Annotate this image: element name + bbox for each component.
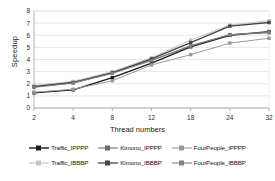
legend-item-fourpeople-ipppp[interactable]: FourPeople_IPPPP (172, 144, 246, 152)
speedup-line-chart: 012345678 24812182432 Speedup Thread num… (0, 0, 275, 181)
svg-text:2: 2 (32, 114, 36, 121)
legend-swatch-icon (98, 159, 118, 167)
svg-text:8: 8 (26, 7, 30, 14)
svg-text:6: 6 (26, 32, 30, 39)
svg-text:1: 1 (26, 92, 30, 99)
svg-text:4: 4 (71, 114, 75, 121)
legend-label: Traffic_IPPPP (51, 144, 88, 151)
svg-text:32: 32 (265, 114, 273, 121)
svg-text:3: 3 (26, 68, 30, 75)
legend-label: FourPeople_IPPPP (194, 144, 246, 151)
svg-text:4: 4 (26, 56, 30, 63)
legend-label: Kimono_IPPPP (120, 144, 161, 151)
svg-text:24: 24 (226, 114, 234, 121)
svg-text:5: 5 (26, 44, 30, 51)
legend-label: Kimono_IBBBP (120, 159, 161, 166)
plot-area: 012345678 24812182432 Speedup Thread num… (0, 0, 275, 140)
y-axis-title: Speedup (10, 22, 19, 82)
legend-label: FourPeople_IBBBP (194, 159, 246, 166)
legend-row-bottom: Traffic_IBBBP Kimono_IBBBP FourPeople_IB… (0, 155, 275, 170)
legend-swatch-icon (29, 144, 49, 152)
legend-row-top: Traffic_IPPPP Kimono_IPPPP FourPeople_IP… (0, 140, 275, 155)
data-series-group (32, 19, 270, 95)
legend-item-fourpeople-ibbbp[interactable]: FourPeople_IBBBP (172, 159, 246, 167)
svg-text:7: 7 (26, 20, 30, 27)
legend-label: Traffic_IBBBP (51, 159, 88, 166)
legend-swatch-icon (172, 144, 192, 152)
x-tick-labels: 24812182432 (32, 114, 273, 121)
svg-text:2: 2 (26, 80, 30, 87)
svg-text:18: 18 (187, 114, 195, 121)
legend-swatch-icon (29, 159, 49, 167)
y-tick-labels: 012345678 (26, 7, 30, 111)
svg-text:12: 12 (148, 114, 156, 121)
chart-svg: 012345678 24812182432 (0, 0, 275, 140)
x-axis-title: Thread numbers (0, 125, 275, 134)
legend-swatch-icon (98, 144, 118, 152)
svg-text:8: 8 (111, 114, 115, 121)
svg-text:0: 0 (26, 104, 30, 111)
legend-item-traffic-ipppp[interactable]: Traffic_IPPPP (29, 144, 88, 152)
legend-item-kimono-ipppp[interactable]: Kimono_IPPPP (98, 144, 161, 152)
legend-swatch-icon (172, 159, 192, 167)
chart-legend: Traffic_IPPPP Kimono_IPPPP FourPeople_IP… (0, 140, 275, 181)
legend-item-traffic-ibbbp[interactable]: Traffic_IBBBP (29, 159, 88, 167)
legend-item-kimono-ibbbp[interactable]: Kimono_IBBBP (98, 159, 161, 167)
